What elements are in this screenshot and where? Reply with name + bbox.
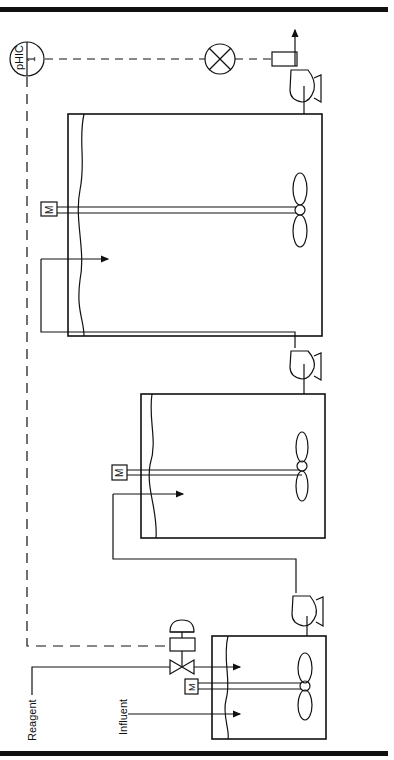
bottom-rule: [0, 751, 388, 756]
pump-icon: [290, 351, 321, 394]
influent-label: Influent: [117, 699, 129, 735]
motor-label: M: [187, 684, 197, 692]
motor-label: M: [114, 469, 125, 477]
pump-icon: [290, 70, 321, 114]
control-valve-icon: [170, 620, 195, 674]
signal-line-left: [27, 77, 168, 646]
tank-1: [185, 636, 326, 739]
controller-tag: pHIC: [13, 45, 25, 70]
top-rule: [0, 7, 388, 12]
analyzer-icon: [205, 44, 235, 74]
tank-2: [112, 394, 325, 538]
reagent-line: [32, 667, 170, 695]
motor-label: M: [44, 206, 55, 214]
process-diagram: pHIC 1 M M M Reagent Influent: [0, 0, 394, 760]
pump-icon: [292, 596, 323, 636]
controller-loop: 1: [26, 56, 37, 62]
tank-3: [41, 114, 322, 336]
ph-probe: [272, 52, 297, 66]
reagent-label: Reagent: [26, 699, 38, 741]
